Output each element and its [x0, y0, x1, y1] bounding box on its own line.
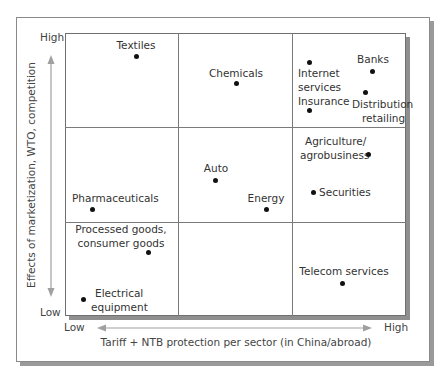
point-label-internet-services-line2: services	[298, 80, 341, 94]
y-axis-arrow-icon	[48, 55, 55, 297]
point-label-insurance: Insurance	[298, 94, 350, 108]
point-label-banks: Banks	[357, 52, 389, 66]
y-axis-title: Effects of marketization, WTO, competiti…	[25, 62, 37, 288]
point-label-energy: Energy	[248, 191, 285, 205]
x-axis-low-label: Low	[64, 321, 85, 333]
point-label-processed-goods-line1: Processed goods,	[75, 222, 166, 236]
y-axis-high-label: High	[40, 31, 64, 43]
data-point-textiles	[134, 54, 139, 59]
point-label-agriculture-line1: Agriculture/	[305, 134, 366, 148]
data-point-processed-goods	[146, 250, 151, 255]
data-point-internet-services	[307, 60, 312, 65]
point-label-telecom-services: Telecom services	[299, 264, 388, 278]
data-point-energy	[264, 207, 269, 212]
data-point-electrical-equipment	[81, 297, 86, 302]
point-label-distribution-line2: retailing	[362, 111, 405, 125]
x-axis-arrow-icon	[97, 325, 372, 332]
data-point-insurance	[307, 108, 312, 113]
point-label-electrical-line1: Electrical	[95, 286, 143, 300]
data-point-securities	[311, 190, 316, 195]
point-label-agriculture-line2: agrobusiness	[300, 148, 369, 162]
point-label-textiles: Textiles	[116, 38, 155, 52]
data-point-telecom-services	[340, 281, 345, 286]
data-point-chemicals	[234, 81, 239, 86]
data-point-auto	[213, 178, 218, 183]
data-point-pharmaceuticals	[90, 207, 95, 212]
point-label-auto: Auto	[204, 161, 228, 175]
point-label-processed-goods-line2: consumer goods	[78, 236, 165, 250]
data-point-agriculture-agrobusiness	[366, 152, 371, 157]
x-axis-title: Tariff + NTB protection per sector (in C…	[101, 336, 372, 348]
data-point-banks	[370, 69, 375, 74]
x-axis-high-label: High	[384, 321, 408, 333]
data-point-distribution-retailing	[363, 90, 368, 95]
point-label-internet-services-line1: Internet	[298, 66, 340, 80]
point-label-securities: Securities	[319, 185, 371, 199]
y-axis-low-label: Low	[40, 306, 61, 318]
point-label-chemicals: Chemicals	[209, 66, 263, 80]
point-label-electrical-line2: equipment	[91, 300, 148, 314]
point-label-distribution-line1: Distribution	[352, 97, 413, 111]
point-label-pharmaceuticals: Pharmaceuticals	[72, 191, 159, 205]
